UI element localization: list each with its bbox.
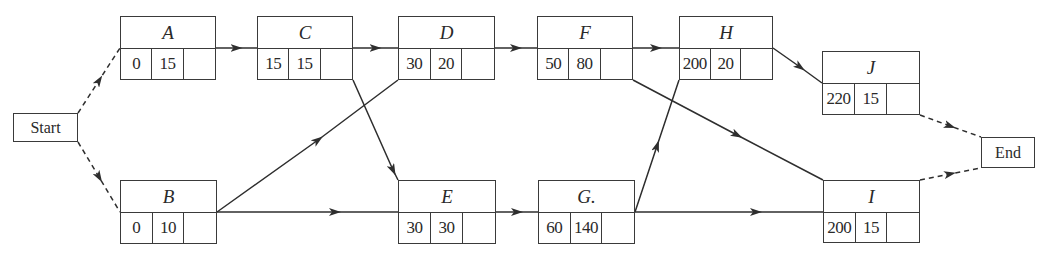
- end-label: End: [995, 144, 1021, 161]
- activity-label: I: [824, 181, 919, 213]
- duration-cell: 15: [856, 213, 888, 243]
- activity-node-c: C 15 15: [257, 16, 353, 80]
- edge-c-e: [353, 80, 398, 180]
- duration-cell: 20: [711, 49, 742, 79]
- earliest-start-cell: 60: [539, 213, 571, 243]
- network-diagram: Start End A 0 15 B 0 10 C 15 15 D 30 20: [0, 0, 1049, 261]
- empty-cell: [463, 213, 495, 243]
- activity-node-a: A 0 15: [120, 16, 216, 80]
- earliest-start-cell: 220: [823, 84, 855, 114]
- earliest-start-cell: 0: [121, 49, 152, 79]
- empty-cell: [462, 49, 494, 79]
- activity-label: E: [399, 181, 495, 213]
- activity-label: H: [680, 17, 772, 49]
- activity-node-b: B 0 10: [120, 180, 217, 244]
- edge-i-end: [920, 168, 981, 180]
- empty-cell: [321, 49, 352, 79]
- start-node: Start: [13, 113, 78, 142]
- earliest-start-cell: 50: [538, 49, 569, 79]
- edge-b-d: [217, 80, 398, 212]
- activity-label: D: [399, 17, 494, 49]
- earliest-start-cell: 200: [824, 213, 856, 243]
- duration-cell: 15: [855, 84, 887, 114]
- activity-node-i: I 200 15: [823, 180, 920, 243]
- empty-cell: [887, 84, 919, 114]
- edge-f-i: [633, 80, 823, 180]
- activity-label: J: [823, 52, 919, 84]
- duration-cell: 15: [289, 49, 320, 79]
- earliest-start-cell: 0: [121, 213, 153, 243]
- activity-label: C: [258, 17, 352, 49]
- empty-cell: [741, 49, 772, 79]
- earliest-start-cell: 30: [399, 49, 431, 79]
- earliest-start-cell: 200: [680, 49, 711, 79]
- activity-node-d: D 30 20: [398, 16, 495, 80]
- start-label: Start: [30, 119, 60, 136]
- activity-node-h: H 200 20: [679, 16, 773, 80]
- edge-start-b: [78, 142, 120, 212]
- empty-cell: [602, 213, 634, 243]
- earliest-start-cell: 15: [258, 49, 289, 79]
- edge-j-end: [920, 115, 981, 137]
- duration-cell: 140: [571, 213, 603, 243]
- activity-label: B: [121, 181, 216, 213]
- activity-label: F: [538, 17, 632, 49]
- duration-cell: 15: [152, 49, 183, 79]
- duration-cell: 20: [431, 49, 463, 79]
- empty-cell: [601, 49, 632, 79]
- edge-g-h: [635, 80, 679, 212]
- duration-cell: 30: [431, 213, 463, 243]
- edge-start-a: [78, 48, 120, 113]
- activity-node-e: E 30 30: [398, 180, 496, 244]
- earliest-start-cell: 30: [399, 213, 431, 243]
- activity-node-f: F 50 80: [537, 16, 633, 80]
- end-node: End: [981, 137, 1035, 168]
- empty-cell: [184, 213, 216, 243]
- duration-cell: 10: [153, 213, 185, 243]
- edge-h-j: [773, 48, 822, 83]
- activity-node-g: G. 60 140: [538, 180, 635, 244]
- activity-label: G.: [539, 181, 634, 213]
- activity-node-j: J 220 15: [822, 51, 920, 115]
- empty-cell: [887, 213, 919, 243]
- empty-cell: [184, 49, 215, 79]
- duration-cell: 80: [569, 49, 600, 79]
- activity-label: A: [121, 17, 215, 49]
